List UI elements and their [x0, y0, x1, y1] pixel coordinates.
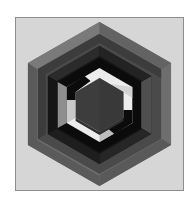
beam-left-vertical-light	[58, 82, 67, 128]
artwork-frame	[15, 17, 184, 191]
artwork-canvas: Nested Hexagonal Spiral	[0, 0, 196, 204]
beam-right-vertical-gray	[141, 76, 151, 134]
hexagon-spiral-graphic	[16, 18, 183, 190]
